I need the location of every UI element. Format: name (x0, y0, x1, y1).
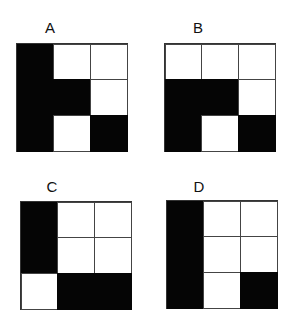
grid-cell-r0c0 (167, 201, 205, 238)
grid-cell-r2c0 (17, 115, 55, 152)
grid-cell-r2c1 (201, 115, 239, 152)
grid-cell-r2c0 (167, 272, 205, 309)
grid-cell-r0c2 (238, 44, 276, 81)
grid-cell-r0c0 (165, 44, 203, 81)
grid-cell-r2c0 (165, 115, 203, 152)
panel-label-c: C (42, 179, 62, 194)
grid-cell-r0c1 (203, 201, 241, 238)
grid-d (166, 200, 278, 309)
grid-cell-r0c0 (17, 44, 55, 81)
panel-label-b: B (188, 20, 208, 35)
grid-cell-r0c2 (240, 201, 278, 238)
grid-cell-r1c2 (94, 237, 132, 274)
grid-cell-r1c0 (167, 236, 205, 273)
grid-cell-r2c1 (57, 273, 95, 310)
grid-cell-r2c2 (94, 273, 132, 310)
grid-cell-r2c2 (90, 115, 128, 152)
grid-cell-r0c1 (201, 44, 239, 81)
panel-label-d: D (189, 179, 209, 194)
grid-cell-r1c2 (238, 79, 276, 116)
grid-cell-r1c0 (17, 79, 55, 116)
grid-cell-r0c0 (21, 202, 59, 239)
grid-b (164, 43, 276, 152)
grid-cell-r1c1 (53, 79, 91, 116)
grid-cell-r2c2 (238, 115, 276, 152)
grid-cell-r1c2 (240, 236, 278, 273)
grid-cell-r1c1 (57, 237, 95, 274)
grid-cell-r2c0 (21, 273, 59, 310)
grid-cell-r1c0 (165, 79, 203, 116)
grid-cell-r0c2 (94, 202, 132, 239)
grid-cell-r2c1 (203, 272, 241, 309)
grid-cell-r1c0 (21, 237, 59, 274)
panel-label-a: A (40, 20, 60, 35)
grid-cell-r0c1 (53, 44, 91, 81)
grid-cell-r1c2 (90, 79, 128, 116)
grid-cell-r0c1 (57, 202, 95, 239)
grid-cell-r0c2 (90, 44, 128, 81)
grid-c (20, 201, 132, 310)
grid-cell-r2c1 (53, 115, 91, 152)
grid-cell-r1c1 (201, 79, 239, 116)
grid-cell-r1c1 (203, 236, 241, 273)
grid-a (16, 43, 128, 152)
grid-cell-r2c2 (240, 272, 278, 309)
